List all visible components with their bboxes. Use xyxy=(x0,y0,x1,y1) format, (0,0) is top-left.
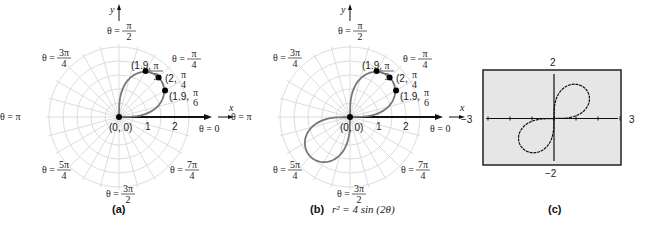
p1-frac-num: π xyxy=(384,60,389,71)
angle-3pi-2-den: 2 xyxy=(126,194,131,205)
angle-0: θ = 0 xyxy=(199,123,219,134)
origin-label: (0, 0) xyxy=(109,122,132,133)
angle-pi-4-den: 4 xyxy=(192,59,197,70)
angle-3pi-4-num: 3π xyxy=(59,47,69,58)
angle-pi-2-theta: θ = xyxy=(338,25,351,36)
tick-1: 1 xyxy=(145,121,151,132)
angle-pi-2-den: 2 xyxy=(127,31,132,42)
y-label: y xyxy=(109,4,115,15)
origin-point xyxy=(347,114,353,120)
angle-pi-4-theta: θ = xyxy=(172,53,185,64)
angle-3pi-4-num: 3π xyxy=(290,47,300,58)
angle-7pi-4-theta: θ = xyxy=(170,164,183,175)
calculator-screen xyxy=(483,70,621,165)
angle-5pi-4-den: 4 xyxy=(62,170,67,181)
y-label: y xyxy=(340,4,346,15)
p1-frac-den: 3 xyxy=(154,71,159,82)
angle-3pi-4-den: 4 xyxy=(293,58,298,69)
y-arrowhead xyxy=(348,4,352,10)
origin-label: (0, 0) xyxy=(340,122,363,133)
angle-7pi-4-theta: θ = xyxy=(401,164,414,175)
angle-7pi-4-den: 4 xyxy=(190,170,195,181)
origin-point xyxy=(116,114,122,120)
label-p2: (2, xyxy=(396,73,408,84)
polar-axis-arrow xyxy=(204,114,212,120)
c-ymax: 2 xyxy=(550,57,556,68)
angle-7pi-4-num: 7π xyxy=(187,159,197,170)
angle-3pi-4-theta: θ = xyxy=(42,52,55,63)
c-ymin: −2 xyxy=(545,168,557,179)
angle-5pi-4-num: 5π xyxy=(290,159,300,170)
p1-frac-den: 3 xyxy=(385,71,390,82)
caption-b: (b) xyxy=(310,203,324,215)
angle-5pi-4-theta: θ = xyxy=(273,164,286,175)
label-p3: (1.9, xyxy=(169,91,189,102)
tick-2: 2 xyxy=(172,121,178,132)
angle-7pi-4-num: 7π xyxy=(418,159,428,170)
caption-a: (a) xyxy=(112,203,126,215)
angle-3pi-4-theta: θ = xyxy=(273,52,286,63)
tick-1: 1 xyxy=(376,121,382,132)
angle-pi-4-num: π xyxy=(191,48,196,59)
panel-a: xy(1.9,π3(2,π4(1.9,π6(0, 0)12θ = 0θ = πθ… xyxy=(0,4,234,205)
panel-b: xy(1.9,π3(2,π4(1.9,π6(0, 0)12θ = 0θ = πθ… xyxy=(231,4,465,205)
label-p3: (1.9, xyxy=(400,91,420,102)
angle-3pi-2-num: 3π xyxy=(354,183,364,194)
angle-pi-4-num: π xyxy=(422,48,427,59)
angle-7pi-4-den: 4 xyxy=(421,170,426,181)
angle-3pi-2-theta: θ = xyxy=(337,188,350,199)
tick-2: 2 xyxy=(403,121,409,132)
angle-0: θ = 0 xyxy=(430,123,450,134)
angle-pi-2-theta: θ = xyxy=(107,25,120,36)
angle-5pi-4-den: 4 xyxy=(293,170,298,181)
label-p3-den: 6 xyxy=(193,97,198,108)
angle-3pi-4-den: 4 xyxy=(62,58,67,69)
point-3 xyxy=(393,87,399,93)
c-xmax: 3 xyxy=(629,114,635,125)
y-arrowhead xyxy=(117,4,121,10)
equation-b: r² = 4 sin (2θ) xyxy=(332,203,395,216)
label-p1: (1.9, xyxy=(362,60,382,71)
angle-pi: θ = π xyxy=(231,111,251,122)
panel-c: 2−2−33 xyxy=(461,57,635,179)
polar-axis-arrow xyxy=(435,114,443,120)
angle-3pi-2-theta: θ = xyxy=(106,188,119,199)
caption-c: (c) xyxy=(548,203,562,215)
x-label: x xyxy=(459,102,465,113)
angle-pi-4-theta: θ = xyxy=(403,53,416,64)
figure: xy(1.9,π3(2,π4(1.9,π6(0, 0)12θ = 0θ = πθ… xyxy=(0,0,645,240)
angle-5pi-4-num: 5π xyxy=(59,159,69,170)
angle-pi-4-den: 4 xyxy=(423,59,428,70)
angle-pi-2-num: π xyxy=(357,20,362,31)
angle-pi: θ = π xyxy=(0,111,20,122)
angle-5pi-4-theta: θ = xyxy=(42,164,55,175)
angle-3pi-2-num: 3π xyxy=(123,183,133,194)
label-p1: (1.9, xyxy=(131,60,151,71)
label-p2-den: 4 xyxy=(181,79,186,90)
label-p3-den: 6 xyxy=(424,97,429,108)
p1-frac-num: π xyxy=(153,60,158,71)
angle-pi-2-num: π xyxy=(126,20,131,31)
label-p2-den: 4 xyxy=(412,79,417,90)
c-xmin: −3 xyxy=(461,114,473,125)
angle-pi-2-den: 2 xyxy=(358,31,363,42)
label-p2: (2, xyxy=(165,73,177,84)
point-3 xyxy=(162,87,168,93)
